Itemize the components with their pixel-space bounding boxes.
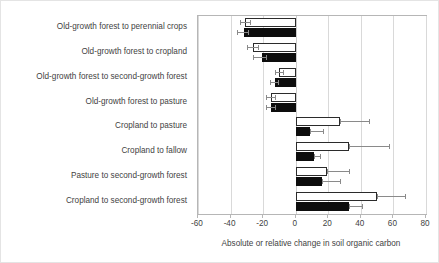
category-label: Pasture to second-growth forest — [71, 171, 187, 181]
error-bar-line — [240, 22, 250, 23]
bar-open — [296, 167, 327, 176]
category-label: Cropland to fallow — [121, 146, 187, 156]
error-bar-cap — [266, 95, 267, 100]
x-tick-label: 80 — [420, 219, 429, 229]
error-bar-cap — [377, 194, 378, 199]
bar-filled — [296, 127, 311, 136]
x-tick-label: -20 — [256, 219, 268, 229]
bar-group — [198, 165, 426, 190]
error-bar-line — [327, 171, 350, 172]
bar-group — [198, 41, 426, 66]
error-bar-line — [377, 196, 405, 197]
category-label: Old-growth forest to second-growth fores… — [36, 72, 187, 82]
bar-filled — [296, 177, 322, 186]
x-tick — [360, 214, 361, 218]
error-bar-line — [340, 121, 369, 122]
error-bar-cap — [320, 154, 321, 159]
bar-filled — [296, 202, 350, 211]
category-label: Cropland to pasture — [115, 121, 187, 131]
bar-group — [198, 16, 426, 41]
error-bar-cap — [314, 154, 315, 159]
error-bar-cap — [349, 204, 350, 209]
error-bar-cap — [389, 144, 390, 149]
bar-group — [198, 189, 426, 214]
error-bar-cap — [278, 80, 279, 85]
error-bar-cap — [310, 129, 311, 134]
x-tick — [295, 214, 296, 218]
bar-group — [198, 66, 426, 91]
bar-filled — [244, 28, 296, 37]
error-bar-cap — [250, 20, 251, 25]
x-tick-label: 60 — [388, 219, 397, 229]
error-bar-cap — [253, 55, 254, 60]
error-bar-cap — [247, 45, 248, 50]
x-tick — [262, 214, 263, 218]
error-bar-cap — [362, 204, 363, 209]
x-tick-label: -40 — [224, 219, 236, 229]
category-label: Old-growth forest to pasture — [86, 97, 187, 107]
error-bar-line — [237, 32, 248, 33]
error-bar-cap — [258, 45, 259, 50]
bar-filled — [296, 152, 314, 161]
bar-open — [296, 117, 340, 126]
bar-group — [198, 90, 426, 115]
bar-open — [296, 192, 377, 201]
error-bar-cap — [340, 119, 341, 124]
chart-figure: Old-growth forest to perennial cropsOld-… — [0, 0, 439, 263]
error-bar-line — [253, 57, 266, 58]
bar-open — [253, 43, 295, 52]
error-bar-cap — [327, 169, 328, 174]
gridline-80 — [426, 16, 427, 214]
category-label: Old-growth forest to cropland — [81, 47, 187, 57]
x-tick — [230, 214, 231, 218]
error-bar-cap — [270, 80, 271, 85]
error-bar-cap — [322, 179, 323, 184]
error-bar-cap — [275, 105, 276, 110]
bar-group — [198, 115, 426, 140]
error-bar-cap — [349, 144, 350, 149]
error-bar-line — [322, 181, 340, 182]
x-tick — [197, 214, 198, 218]
error-bar-line — [310, 131, 323, 132]
x-tick-label: 20 — [323, 219, 332, 229]
error-bar-line — [266, 107, 274, 108]
x-axis: -60-40-20020406080 — [197, 214, 425, 230]
x-tick-label: 0 — [292, 219, 297, 229]
bar-open — [296, 142, 350, 151]
error-bar-line — [275, 72, 283, 73]
x-axis-title: Absolute or relative change in soil orga… — [197, 239, 425, 248]
bar-open — [245, 18, 295, 27]
error-bar-line — [247, 47, 258, 48]
error-bar-cap — [266, 105, 267, 110]
error-bar-line — [266, 97, 274, 98]
error-bar-cap — [405, 194, 406, 199]
error-bar-cap — [275, 95, 276, 100]
category-label: Old-growth forest to perennial crops — [57, 22, 187, 32]
x-tick — [392, 214, 393, 218]
error-bar-cap — [248, 30, 249, 35]
error-bar-cap — [240, 20, 241, 25]
error-bar-cap — [340, 179, 341, 184]
x-tick — [327, 214, 328, 218]
error-bar-cap — [323, 129, 324, 134]
x-tick-label: 40 — [355, 219, 364, 229]
category-label: Cropland to second-growth forest — [66, 196, 187, 206]
error-bar-cap — [369, 119, 370, 124]
error-bar-line — [270, 82, 278, 83]
category-axis-labels: Old-growth forest to perennial cropsOld-… — [1, 15, 193, 213]
error-bar-cap — [283, 70, 284, 75]
error-bar-cap — [266, 55, 267, 60]
bar-group — [198, 140, 426, 165]
error-bar-cap — [237, 30, 238, 35]
x-tick — [425, 214, 426, 218]
error-bar-line — [349, 206, 362, 207]
error-bar-cap — [275, 70, 276, 75]
plot-area — [197, 15, 427, 215]
error-bar-line — [349, 146, 388, 147]
x-tick-label: -60 — [191, 219, 203, 229]
error-bar-cap — [349, 169, 350, 174]
